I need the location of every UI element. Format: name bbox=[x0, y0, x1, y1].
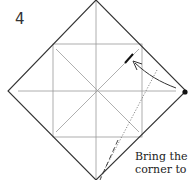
caption-line-2: corner to bbox=[135, 163, 188, 176]
caption-line-1: Bring the bbox=[135, 150, 188, 163]
fold-arrow bbox=[135, 63, 176, 88]
corner-dot-icon bbox=[182, 89, 187, 94]
target-mark bbox=[125, 54, 133, 63]
step-number: 4 bbox=[15, 10, 25, 28]
instruction-caption: Bring the corner to bbox=[135, 150, 188, 176]
